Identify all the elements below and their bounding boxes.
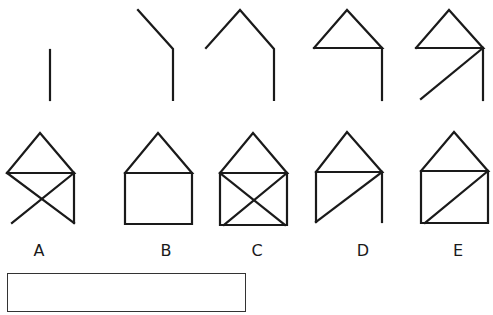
option-figure-c[interactable]: [220, 133, 287, 225]
sequence-figure-3: [206, 10, 274, 100]
option-figure-b[interactable]: [125, 133, 192, 224]
answer-input-box[interactable]: [7, 273, 246, 312]
sequence-figure-5: [416, 10, 483, 100]
sequence-figure-2: [138, 10, 173, 100]
sequence-figure-4: [314, 10, 382, 100]
option-label-a[interactable]: A: [34, 243, 45, 259]
option-figure-e[interactable]: [421, 132, 488, 223]
option-label-b[interactable]: B: [161, 243, 172, 259]
option-label-e[interactable]: E: [453, 243, 463, 259]
option-figure-d[interactable]: [316, 132, 382, 222]
option-label-c[interactable]: C: [251, 243, 262, 259]
option-figure-a[interactable]: [7, 133, 74, 223]
puzzle-figures: [0, 0, 493, 315]
option-label-d[interactable]: D: [357, 243, 369, 259]
